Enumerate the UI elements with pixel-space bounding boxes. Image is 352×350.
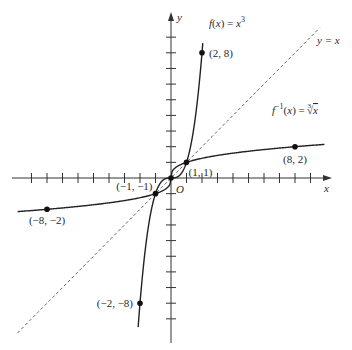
function-inverse-graph: x y O (2, 8)(8, 2)(1, 1)(−1, −1)(−8, −2)… — [0, 0, 352, 350]
point-label: (−1, −1) — [116, 180, 153, 193]
point-label: (8, 2) — [283, 153, 307, 166]
origin-label: O — [176, 183, 184, 195]
point-label: (2, 8) — [209, 47, 233, 60]
point-marker — [292, 144, 298, 150]
point-label: (−8, −2) — [29, 214, 66, 227]
point-marker — [184, 160, 190, 166]
point-marker — [199, 50, 205, 56]
x-axis-label: x — [323, 182, 329, 194]
y-axis-label: y — [176, 11, 182, 23]
point-label: (1, 1) — [189, 166, 213, 179]
inverse-function-label: f−1(x) = 3√x — [272, 102, 318, 117]
point-marker — [168, 175, 174, 181]
point-marker — [153, 191, 159, 197]
point-label: (−2, −8) — [97, 297, 134, 310]
identity-line-label: y = x — [316, 34, 340, 46]
point-marker — [44, 207, 50, 213]
cube-function-label: f(x) = x3 — [209, 15, 245, 30]
x-axis-arrow-icon — [323, 175, 332, 181]
y-axis-arrow-icon — [168, 12, 174, 21]
point-marker — [137, 300, 143, 306]
